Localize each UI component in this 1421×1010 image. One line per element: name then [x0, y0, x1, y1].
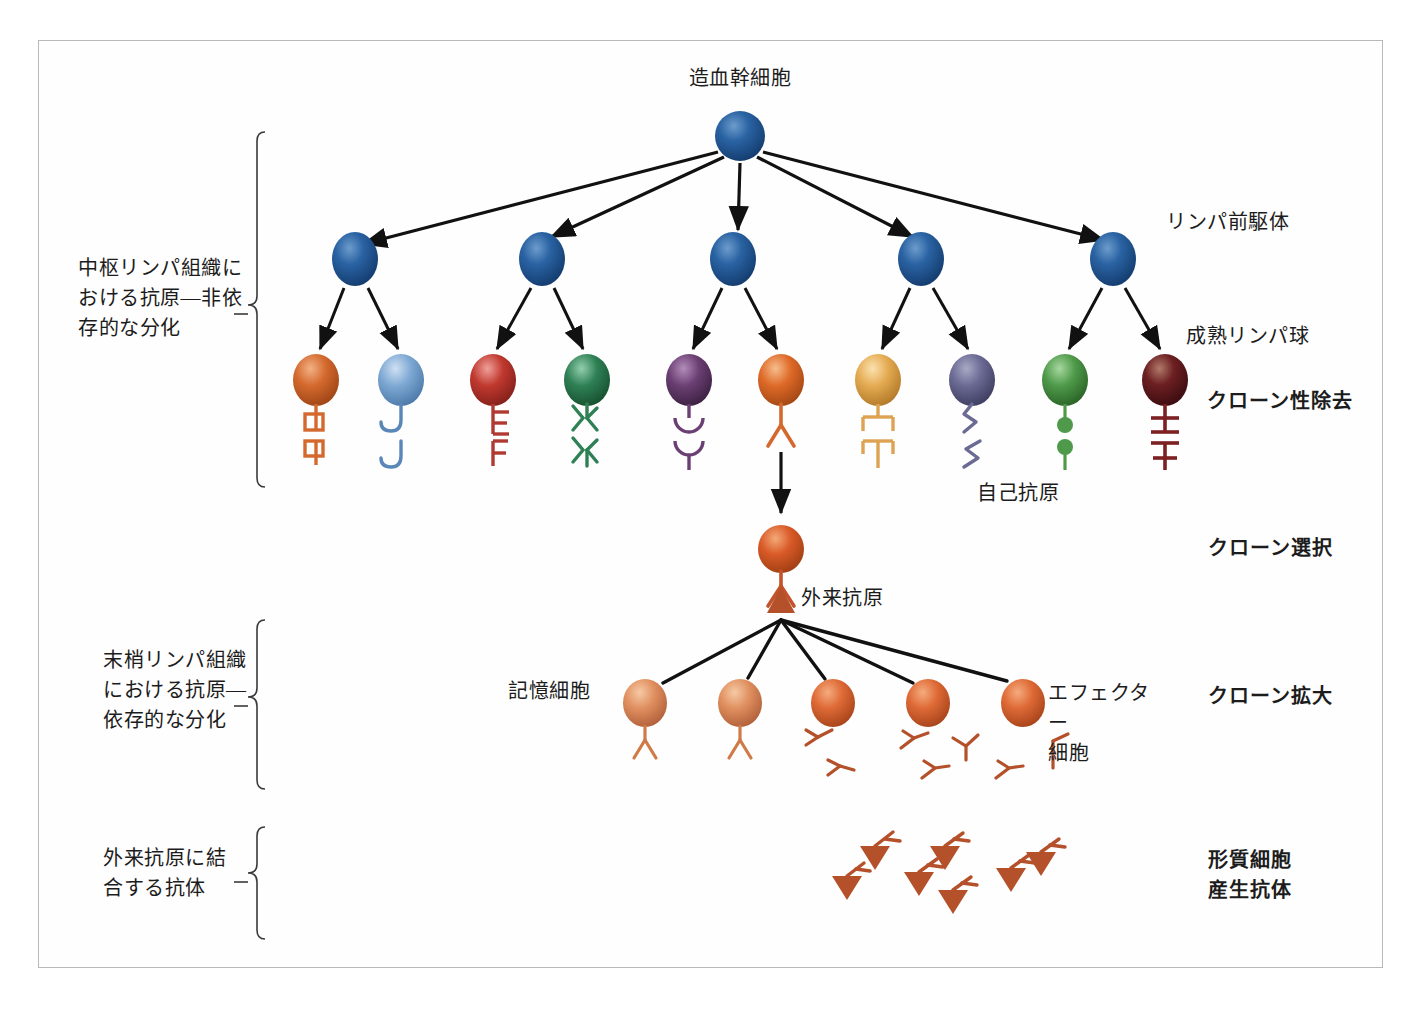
self-antigen-5	[675, 441, 703, 470]
stage-label-peripheral-lymphoid: 末梢リンパ組織 における抗原― 依存的な分化	[103, 645, 273, 735]
mature-lymphocyte-8	[949, 354, 995, 467]
label-lymphoid-precursor: リンパ前駆体	[1166, 207, 1289, 237]
mature-lymphocyte-7	[855, 354, 901, 468]
antibody-3	[904, 859, 943, 896]
stage-label-clonal-selection: クローン選択	[1208, 533, 1333, 563]
self-antigen-7	[863, 441, 893, 468]
stage-label-antibody: 外来抗原に結 合する抗体	[103, 843, 273, 903]
stage-label-clonal-expansion: クローン拡大	[1208, 681, 1333, 711]
mature-lymphocyte-3	[470, 354, 516, 466]
mature-lymphocyte-9	[1042, 354, 1088, 470]
antibody-6	[996, 855, 1035, 892]
mature-lymphocyte-4	[564, 354, 610, 466]
label-self-antigen: 自己抗原	[977, 478, 1059, 508]
stage-label-plasma-cell: 形質細胞 産生抗体	[1208, 845, 1292, 905]
mature-lymphocyte-10-deleted	[1142, 354, 1188, 470]
mature-lymphocyte-2	[378, 354, 424, 467]
memory-cell-1	[623, 679, 667, 758]
label-memory-cell: 記憶細胞	[508, 676, 590, 706]
self-antigen-10	[1151, 443, 1179, 470]
stage-label-clonal-deletion: クローン性除去	[1207, 386, 1353, 416]
effector-cell-1	[806, 679, 855, 775]
selected-clone-cell	[758, 525, 804, 613]
secreted-antibodies	[832, 832, 1065, 914]
antibody-5	[938, 877, 977, 914]
self-antigen-3	[493, 441, 508, 466]
page-title: 造血幹細胞	[640, 63, 840, 93]
effector-cell-2	[901, 679, 978, 778]
mature-lymphocyte-6	[758, 354, 804, 513]
antibody-7	[1026, 839, 1065, 876]
self-antigen-2	[381, 441, 401, 467]
label-effector-cell: エフェクター 細胞	[1048, 678, 1168, 768]
receptor-y-shape	[768, 404, 794, 446]
antibody-1	[832, 863, 870, 900]
lymphoid-precursor-cells	[332, 232, 1136, 286]
mature-lymphocyte-5	[666, 354, 712, 470]
clonal-expansion-lines	[663, 620, 1007, 683]
stage-label-central-lymphoid: 中枢リンパ組織に おける抗原―非依 存的な分化	[78, 253, 258, 343]
stem-to-precursor-arrows	[363, 152, 1104, 244]
self-antigen-9	[1057, 439, 1073, 470]
self-antigen-8	[964, 441, 980, 467]
label-foreign-antigen: 外来抗原	[801, 583, 883, 613]
self-antigen-4	[573, 438, 597, 466]
antibody-2	[860, 832, 900, 870]
memory-cell-2	[718, 679, 762, 758]
hematopoietic-stem-cell	[715, 111, 765, 161]
diagram-page: 造血幹細胞 中枢リンパ組織に おける抗原―非依 存的な分化 末梢リンパ組織 にお…	[0, 0, 1421, 1010]
mature-lymphocyte-1	[293, 354, 339, 465]
self-antigen-1	[305, 441, 323, 465]
precursor-to-mature-arrows	[320, 288, 1160, 349]
label-mature-lymphocyte: 成熟リンパ球	[1186, 321, 1309, 351]
